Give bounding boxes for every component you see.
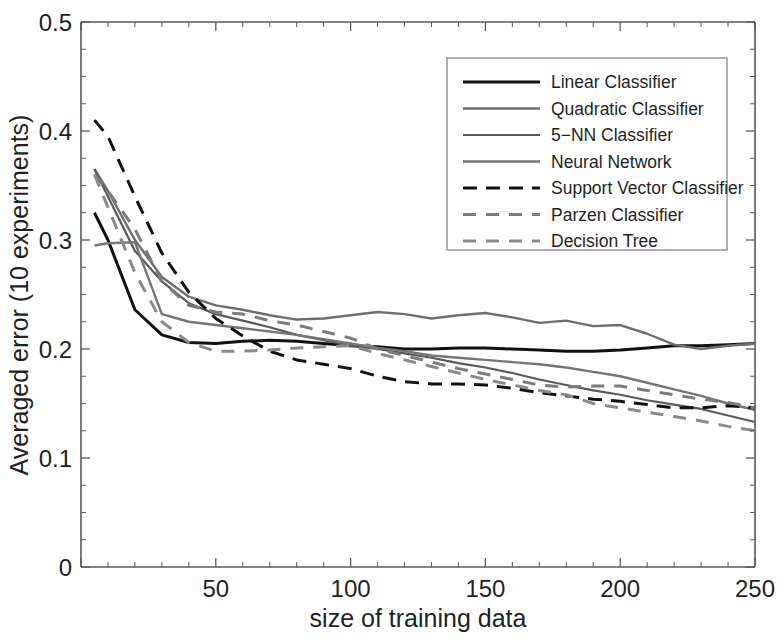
y-tick-label: 0.4: [39, 118, 72, 145]
series-line-neural-network: [94, 242, 755, 410]
legend-label: Linear Classifier: [551, 72, 677, 92]
x-axis-title: size of training data: [310, 604, 527, 632]
y-axis-tick-labels: 00.10.20.30.40.5: [39, 9, 72, 581]
y-tick-label: 0.1: [39, 445, 72, 472]
y-tick-label: 0.5: [39, 9, 72, 36]
x-tick-label: 100: [331, 575, 371, 602]
chart-page: 50100150200250 00.10.20.30.40.5 size of …: [0, 0, 779, 641]
line-chart: 50100150200250 00.10.20.30.40.5 size of …: [0, 0, 779, 641]
legend-label: Decision Tree: [551, 231, 658, 251]
y-tick-label: 0: [59, 554, 72, 581]
legend-label: Parzen Classifier: [551, 205, 683, 225]
x-tick-label: 50: [202, 575, 229, 602]
x-tick-label: 150: [465, 575, 505, 602]
legend-label: Support Vector Classifier: [551, 178, 744, 198]
x-tick-label: 200: [600, 575, 640, 602]
legend-label: 5−NN Classifier: [551, 125, 673, 145]
x-tick-label: 250: [735, 575, 775, 602]
y-axis-title: Averaged error (10 experiments): [5, 115, 33, 476]
x-axis-tick-labels: 50100150200250: [202, 575, 775, 602]
legend: Linear ClassifierQuadratic Classifier5−N…: [447, 58, 744, 251]
y-tick-label: 0.3: [39, 227, 72, 254]
y-tick-label: 0.2: [39, 336, 72, 363]
legend-label: Quadratic Classifier: [551, 99, 704, 119]
legend-label: Neural Network: [551, 152, 672, 172]
